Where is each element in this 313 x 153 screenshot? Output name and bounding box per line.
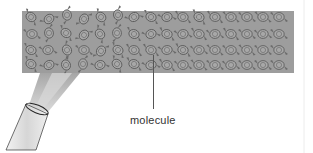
illustration [0,0,313,153]
diagram-stage: molecule [0,0,313,153]
molecule-label: molecule [130,114,176,126]
molecule-leader-line [153,55,154,109]
